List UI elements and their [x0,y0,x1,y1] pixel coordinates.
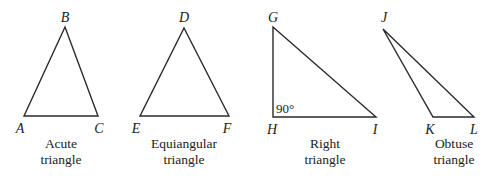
vertex-label-h: H [266,122,278,137]
vertex-label-j: J [381,10,388,25]
acute-triangle: B A C Acute triangle [15,10,105,167]
vertex-label-k: K [424,122,435,137]
acute-triangle-shape [24,27,98,116]
acute-caption-line1: Acute [45,136,77,151]
vertex-label-a: A [15,121,25,136]
vertex-label-b: B [61,10,70,25]
triangle-types-figure: B A C Acute triangle D E F Equiangular t… [0,0,494,178]
vertex-label-f: F [222,121,232,136]
right-caption-line1: Right [310,136,340,151]
obtuse-triangle-shape [383,29,474,117]
vertex-label-l: L [469,122,478,137]
equiangular-triangle: D E F Equiangular triangle [131,10,232,167]
equiangular-triangle-shape [140,28,229,116]
vertex-label-g: G [268,10,278,25]
right-caption-line2: triangle [304,152,345,167]
right-triangle: 90° G H I Right triangle [266,10,379,167]
figure-svg: B A C Acute triangle D E F Equiangular t… [0,0,494,178]
right-angle-label: 90° [276,101,294,116]
equiangular-caption-line1: Equiangular [151,136,217,151]
vertex-label-i: I [372,122,379,137]
acute-caption-line2: triangle [40,152,81,167]
obtuse-triangle: J K L Obtuse triangle [381,10,478,167]
obtuse-caption-line1: Obtuse [435,136,473,151]
equiangular-caption-line2: triangle [163,152,204,167]
vertex-label-e: E [131,121,141,136]
vertex-label-c: C [94,121,104,136]
vertex-label-d: D [178,10,189,25]
obtuse-caption-line2: triangle [433,152,474,167]
